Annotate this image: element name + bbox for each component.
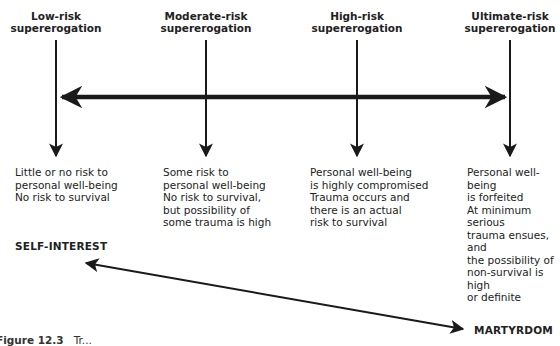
self-interest-martyrdom-arrow bbox=[86, 263, 463, 329]
description-ultimate-risk: Personal well-being is forfeited At mini… bbox=[467, 166, 560, 304]
header-moderate-risk: Moderate-risk supererogation bbox=[146, 10, 266, 34]
header-line: supererogation bbox=[146, 22, 266, 34]
pole-martyrdom: MARTYRDOM bbox=[474, 324, 553, 336]
header-line: Moderate-risk bbox=[146, 10, 266, 22]
caption-label: Figure 12.3 bbox=[0, 334, 64, 346]
header-ultimate-risk: Ultimate-risk supererogation bbox=[450, 10, 560, 34]
header-line: supererogation bbox=[450, 22, 560, 34]
header-line: Low-risk bbox=[0, 10, 116, 22]
description-low-risk: Little or no risk to personal well-being… bbox=[15, 166, 118, 204]
description-moderate-risk: Some risk to personal well-being No risk… bbox=[163, 166, 271, 229]
pole-self-interest: SELF-INTEREST bbox=[15, 240, 107, 252]
header-low-risk: Low-risk supererogation bbox=[0, 10, 116, 34]
header-line: supererogation bbox=[297, 22, 417, 34]
header-line: supererogation bbox=[0, 22, 116, 34]
caption-text: Tr... bbox=[74, 334, 92, 346]
header-line: High-risk bbox=[297, 10, 417, 22]
header-high-risk: High-risk supererogation bbox=[297, 10, 417, 34]
figure-caption: Figure 12.3 Tr... bbox=[0, 334, 92, 346]
header-line: Ultimate-risk bbox=[450, 10, 560, 22]
description-high-risk: Personal well-being is highly compromise… bbox=[310, 166, 428, 229]
